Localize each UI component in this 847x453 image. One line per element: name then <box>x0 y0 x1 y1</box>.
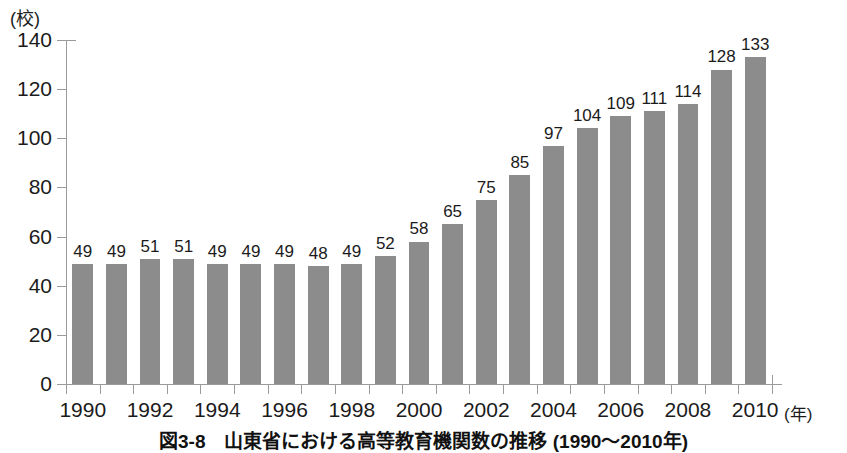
bar <box>308 266 329 384</box>
x-axis-tick-label: 2004 <box>530 398 577 422</box>
bar <box>543 146 564 384</box>
x-axis-tick <box>100 385 101 394</box>
x-axis-tick <box>234 385 235 394</box>
bar <box>106 264 127 384</box>
bar-value-label: 65 <box>443 202 462 222</box>
y-axis-tick-label: 120 <box>17 77 52 101</box>
bar <box>240 264 261 384</box>
bar <box>577 128 598 384</box>
bar <box>173 259 194 384</box>
x-axis-tick-label: 2008 <box>665 398 712 422</box>
x-axis-tick <box>402 385 403 394</box>
y-axis-tick-label: 80 <box>29 175 52 199</box>
bar <box>207 264 228 384</box>
bar-value-label: 51 <box>174 237 193 257</box>
x-axis-tick <box>200 385 201 394</box>
y-axis-tick-label: 40 <box>29 274 52 298</box>
y-axis-unit-label: (校) <box>10 4 40 30</box>
y-axis-tick <box>57 335 66 336</box>
x-axis-tick-label: 2002 <box>463 398 510 422</box>
bar <box>341 264 362 384</box>
x-axis-tick <box>436 385 437 394</box>
x-axis-tick-label: 2010 <box>732 398 779 422</box>
bar-value-label: 52 <box>376 234 395 254</box>
bar <box>678 104 699 384</box>
y-axis-top-cap <box>66 40 76 41</box>
x-axis-tick-label: 1996 <box>261 398 308 422</box>
plot-area: 020406080100120140 199019921994199619982… <box>66 40 782 385</box>
bar <box>476 200 497 384</box>
bar <box>442 224 463 384</box>
x-axis-tick-label: 1994 <box>194 398 241 422</box>
figure-caption: 図3-8 山東省における高等教育機関数の推移 (1990～2010年) <box>0 426 847 453</box>
bar <box>274 264 295 384</box>
bar-value-label: 49 <box>208 242 227 262</box>
x-axis-tick-label: 1992 <box>127 398 174 422</box>
bar <box>409 242 430 385</box>
bar-value-label: 75 <box>477 178 496 198</box>
bar-value-label: 49 <box>241 242 260 262</box>
x-axis-right-cap <box>772 375 773 385</box>
y-axis-tick <box>57 40 66 41</box>
bar-value-label: 111 <box>641 89 667 109</box>
y-axis-line <box>66 40 67 385</box>
bar-value-label: 49 <box>107 242 126 262</box>
bar-value-label: 114 <box>674 82 701 102</box>
x-axis-tick <box>705 385 706 394</box>
bar-value-label: 49 <box>73 242 92 262</box>
y-axis-tick-label: 0 <box>40 372 52 396</box>
x-axis-tick-label: 2000 <box>396 398 443 422</box>
bar-value-label: 49 <box>342 242 361 262</box>
x-axis-tick <box>671 385 672 394</box>
x-axis-tick <box>738 385 739 394</box>
bar-value-label: 104 <box>573 106 601 126</box>
y-axis-tick <box>57 384 66 385</box>
x-axis-tick <box>335 385 336 394</box>
bar <box>509 175 530 384</box>
x-axis-tick <box>469 385 470 394</box>
x-axis-tick <box>268 385 269 394</box>
y-axis-tick-label: 100 <box>17 126 52 150</box>
bar-value-label: 58 <box>410 219 429 239</box>
x-axis-tick <box>369 385 370 394</box>
bar <box>644 111 665 384</box>
bar-value-label: 48 <box>309 244 328 264</box>
y-axis-tick-label: 20 <box>29 323 52 347</box>
x-axis-tick-label: 2006 <box>597 398 644 422</box>
x-axis-tick <box>604 385 605 394</box>
y-axis-tick <box>57 89 66 90</box>
bar-value-label: 85 <box>510 153 529 173</box>
bar <box>711 70 732 385</box>
x-axis-tick <box>570 385 571 394</box>
bar-value-label: 133 <box>741 35 769 55</box>
bar <box>610 116 631 384</box>
y-axis-tick <box>57 237 66 238</box>
x-axis-tick <box>133 385 134 394</box>
bar-value-label: 51 <box>141 237 160 257</box>
x-axis-tick-label: 1998 <box>328 398 375 422</box>
bar-value-label: 97 <box>544 124 563 144</box>
bar-value-label: 109 <box>607 94 635 114</box>
bar <box>140 259 161 384</box>
x-axis-unit-label: (年) <box>784 400 812 425</box>
x-axis-tick-label: 1990 <box>59 398 106 422</box>
x-axis-tick <box>301 385 302 394</box>
bar-value-label: 128 <box>707 47 735 67</box>
bar <box>375 256 396 384</box>
y-axis-tick-label: 60 <box>29 225 52 249</box>
bar <box>745 57 766 384</box>
x-axis-tick <box>537 385 538 394</box>
bar <box>72 264 93 384</box>
bar-value-label: 49 <box>275 242 294 262</box>
y-axis-tick-label: 140 <box>17 28 52 52</box>
x-axis-tick <box>638 385 639 394</box>
y-axis-tick <box>57 187 66 188</box>
x-axis-tick <box>66 385 67 394</box>
x-axis-line <box>66 384 782 385</box>
x-axis-tick <box>167 385 168 394</box>
x-axis-tick <box>503 385 504 394</box>
y-axis-tick <box>57 286 66 287</box>
x-axis-tick <box>772 385 773 394</box>
y-axis-tick <box>57 138 66 139</box>
